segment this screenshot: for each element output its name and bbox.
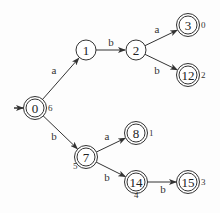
- edge-label: a: [105, 130, 110, 142]
- state-node-15: 153: [177, 171, 207, 194]
- edge-label: b: [154, 64, 160, 76]
- edge-line: [96, 162, 125, 177]
- diagram-canvas: ababbabb 0612301227581144153: [0, 0, 220, 213]
- state-label: 0: [32, 101, 39, 116]
- edge-line: [145, 30, 177, 45]
- edge-line: [96, 138, 125, 152]
- edge-label: b: [51, 130, 57, 142]
- edges-layer: ababbabb: [42, 23, 177, 195]
- state-annotation: 2: [201, 70, 206, 80]
- state-node-3: 30: [177, 14, 207, 37]
- edge-14-15: b: [147, 182, 176, 195]
- state-label: 2: [133, 43, 140, 58]
- edge-0-1: a: [42, 58, 78, 99]
- nodes-layer: 0612301227581144153: [24, 14, 207, 201]
- edge-2-12: b: [145, 54, 177, 76]
- state-node-8: 81: [125, 122, 154, 145]
- state-label: 7: [83, 150, 90, 165]
- edge-7-8: a: [96, 130, 125, 152]
- edge-line: [42, 58, 78, 99]
- automaton-diagram: ababbabb 0612301227581144153: [0, 0, 220, 213]
- state-annotation: 3: [201, 177, 206, 187]
- edge-label: b: [108, 36, 114, 48]
- state-node-7: 75: [73, 146, 98, 172]
- state-node-14: 144: [125, 171, 148, 201]
- state-annotation: 6: [48, 103, 53, 113]
- state-node-1: 1: [76, 40, 96, 60]
- state-node-2: 2: [126, 40, 146, 60]
- edge-7-14: b: [96, 162, 125, 183]
- edge-label: b: [104, 171, 110, 183]
- edge-label: a: [155, 23, 160, 35]
- state-node-0: 06: [24, 97, 54, 120]
- edge-line: [43, 116, 77, 149]
- state-annotation: 4: [134, 190, 139, 200]
- state-label: 12: [182, 68, 195, 83]
- edge-line: [145, 54, 177, 69]
- state-node-12: 122: [177, 64, 206, 87]
- edge-2-3: a: [145, 23, 177, 46]
- edge-label: a: [52, 64, 57, 76]
- state-label: 14: [130, 175, 144, 190]
- state-label: 1: [83, 43, 90, 58]
- state-label: 3: [185, 18, 192, 33]
- state-label: 8: [133, 126, 140, 141]
- state-annotation: 5: [73, 161, 78, 171]
- edge-0-7: b: [43, 116, 77, 149]
- state-annotation: 0: [201, 20, 206, 30]
- edge-1-2: b: [96, 36, 125, 50]
- state-label: 15: [182, 175, 195, 190]
- state-annotation: 1: [149, 128, 154, 138]
- edge-label: b: [160, 183, 166, 195]
